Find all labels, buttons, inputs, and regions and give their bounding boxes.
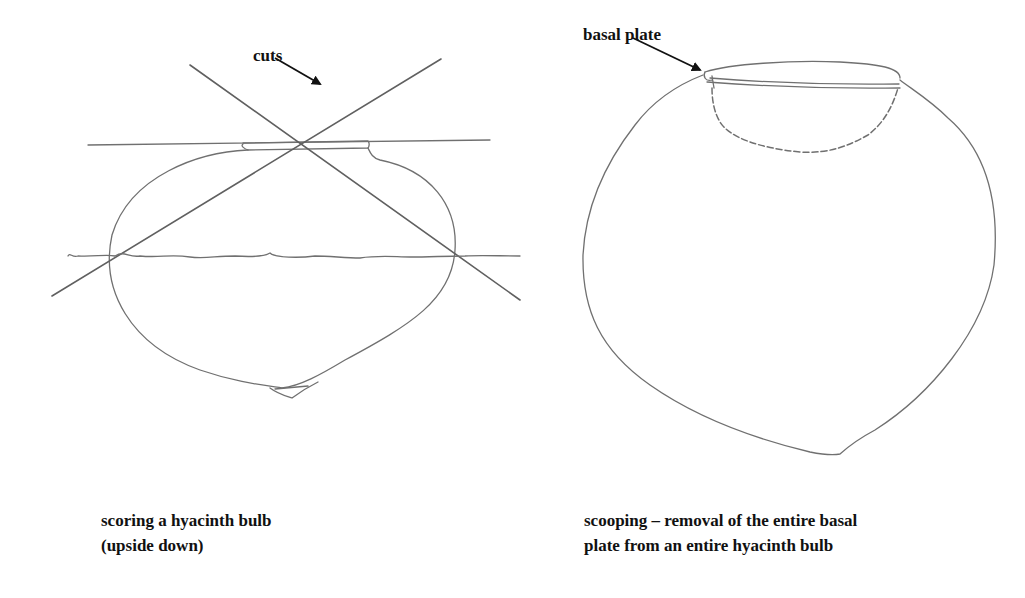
left-caption-line-2: (upside down) [101,533,272,558]
scoop-cavity [712,88,898,152]
left-caption-line-1: scoring a hyacinth bulb [101,508,272,533]
right-caption-line-2: plate from an entire hyacinth bulb [584,533,857,558]
bulb-tip [270,382,318,398]
bulb-outline [583,75,995,455]
bulb-outline [109,148,455,388]
scooped-bulb-drawing [583,61,995,454]
scored-bulb-drawing [52,59,520,398]
diagonal-cut-line-2 [52,59,441,296]
wavy-line [68,253,520,258]
scoop-rim-left [704,72,714,88]
right-caption: scooping – removal of the entire basal p… [584,508,857,558]
scoop-rim [705,61,900,88]
horizontal-cut-line [88,140,490,145]
right-caption-line-1: scooping – removal of the entire basal [584,508,857,533]
basal-plate-label: basal plate [583,25,661,45]
cuts-label: cuts [253,46,282,66]
left-caption: scoring a hyacinth bulb (upside down) [101,508,272,558]
